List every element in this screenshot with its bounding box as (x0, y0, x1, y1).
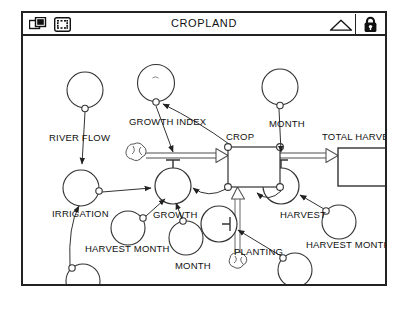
title-bar-divider (355, 14, 356, 34)
label-month-bottom: MONTH (175, 260, 211, 271)
screenshot-root: CROPLAND (0, 0, 407, 314)
converter-harvest-month-left (111, 211, 146, 245)
model-window: CROPLAND (21, 11, 387, 286)
label-month-top: MONTH (269, 118, 305, 129)
converter-harvest-month-right (322, 205, 356, 239)
label-irrigation: IRRIGATION (52, 208, 109, 219)
stock-total-harvest (338, 148, 385, 186)
label-harvest-month-left: HARVEST MONTH (85, 243, 170, 254)
label-total-harvest: TOTAL HARVEST (322, 131, 385, 142)
grow-triangle-icon[interactable] (329, 18, 353, 32)
flow-planting-pipe (201, 187, 245, 252)
connector-crop-growth (193, 188, 226, 194)
converter-water-diversion (66, 264, 100, 284)
label-growth-index: GROWTH INDEX (129, 116, 206, 127)
connector-growthindex-growth (156, 106, 173, 152)
converter-month-bottom (169, 218, 203, 255)
label-planting: PLANTING (234, 246, 283, 257)
converter-growth-index (138, 65, 175, 106)
cloud-source-growth (126, 143, 146, 161)
stock-crop (225, 144, 284, 191)
label-river-flow: RIVER FLOW (49, 132, 110, 143)
converter-irrigation (63, 170, 102, 206)
model-canvas[interactable]: RIVER FLOW GROWTH INDEX CROP MONTH TOTAL… (23, 36, 385, 284)
connector-harvestmonth-harvest (300, 195, 324, 209)
connector-irrigation-growth (102, 188, 151, 192)
flow-growth-pipe (146, 149, 228, 205)
label-harvest: HARVEST (280, 209, 326, 220)
converter-river-flow (67, 72, 103, 112)
window-title-bar: CROPLAND (23, 13, 385, 36)
label-crop: CROP (226, 131, 254, 142)
converter-month-top (262, 69, 298, 109)
label-growth: GROWTH (153, 209, 197, 220)
lock-icon[interactable] (362, 16, 379, 33)
converter-planting-month (278, 253, 312, 284)
label-harvest-month-right: HARVEST MONTH (306, 239, 385, 250)
